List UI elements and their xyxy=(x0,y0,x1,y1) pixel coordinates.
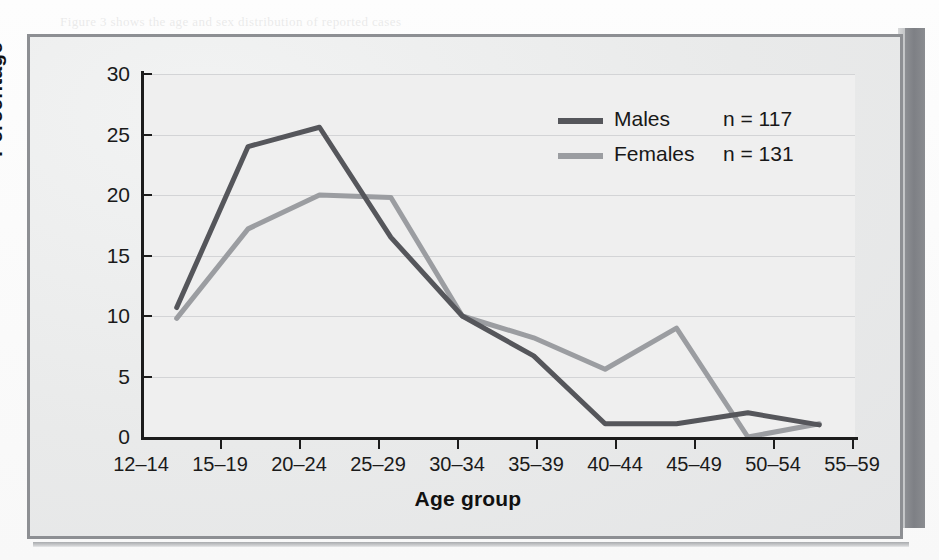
legend: Males n = 117 Females n = 131 xyxy=(558,104,808,174)
y-tick-label-25: 25 xyxy=(70,123,130,147)
x-tick-label-7: 45–49 xyxy=(654,453,734,476)
legend-count-males: n = 117 xyxy=(723,107,792,131)
figure-frame: 30 25 20 15 10 5 0 12–14 15–19 20–24 25–… xyxy=(27,34,903,539)
legend-row-females: Females n = 131 xyxy=(558,139,808,174)
x-axis-line xyxy=(141,437,858,440)
y-tick-20 xyxy=(141,194,152,196)
x-tick-label-3: 25–29 xyxy=(338,453,418,476)
x-tick-5 xyxy=(536,437,538,449)
y-tick-label-0: 0 xyxy=(70,425,130,449)
x-tick-label-5: 35–39 xyxy=(496,453,576,476)
y-tick-label-30: 30 xyxy=(70,62,130,86)
x-tick-4 xyxy=(457,437,459,449)
y-tick-30 xyxy=(141,73,152,75)
x-tick-7 xyxy=(694,437,696,449)
legend-label-males: Males xyxy=(614,107,670,131)
x-tick-2 xyxy=(299,437,301,449)
y-tick-10 xyxy=(141,315,152,317)
y-tick-5 xyxy=(141,376,152,378)
y-tick-label-5: 5 xyxy=(70,365,130,389)
x-tick-8 xyxy=(773,437,775,449)
x-tick-label-1: 15–19 xyxy=(180,453,260,476)
legend-row-males: Males n = 117 xyxy=(558,104,808,139)
legend-swatch-females xyxy=(558,153,603,159)
legend-swatch-males xyxy=(558,118,603,124)
page-edge-shadow xyxy=(905,28,925,528)
y-axis-title: Percentage xyxy=(0,42,7,157)
x-axis-title: Age group xyxy=(30,487,906,511)
series-line-females xyxy=(177,195,820,437)
x-tick-label-2: 20–24 xyxy=(259,453,339,476)
y-tick-label-10: 10 xyxy=(70,304,130,328)
x-tick-label-8: 50–54 xyxy=(733,453,813,476)
x-tick-label-4: 30–34 xyxy=(417,453,497,476)
figure-page: Figure 3 shows the age and sex distribut… xyxy=(0,0,939,560)
figure-frame-shadow xyxy=(33,542,909,547)
x-tick-6 xyxy=(615,437,617,449)
x-tick-label-0: 12–14 xyxy=(101,453,181,476)
y-tick-label-20: 20 xyxy=(70,183,130,207)
y-tick-label-15: 15 xyxy=(70,244,130,268)
legend-label-females: Females xyxy=(614,142,695,166)
legend-count-females: n = 131 xyxy=(723,142,794,166)
y-tick-15 xyxy=(141,255,152,257)
plot-wrapper: 30 25 20 15 10 5 0 12–14 15–19 20–24 25–… xyxy=(30,37,906,542)
x-tick-label-9: 55–59 xyxy=(812,453,892,476)
x-tick-label-6: 40–44 xyxy=(575,453,655,476)
x-tick-9 xyxy=(852,437,854,449)
x-tick-1 xyxy=(220,437,222,449)
y-tick-25 xyxy=(141,134,152,136)
x-tick-3 xyxy=(378,437,380,449)
